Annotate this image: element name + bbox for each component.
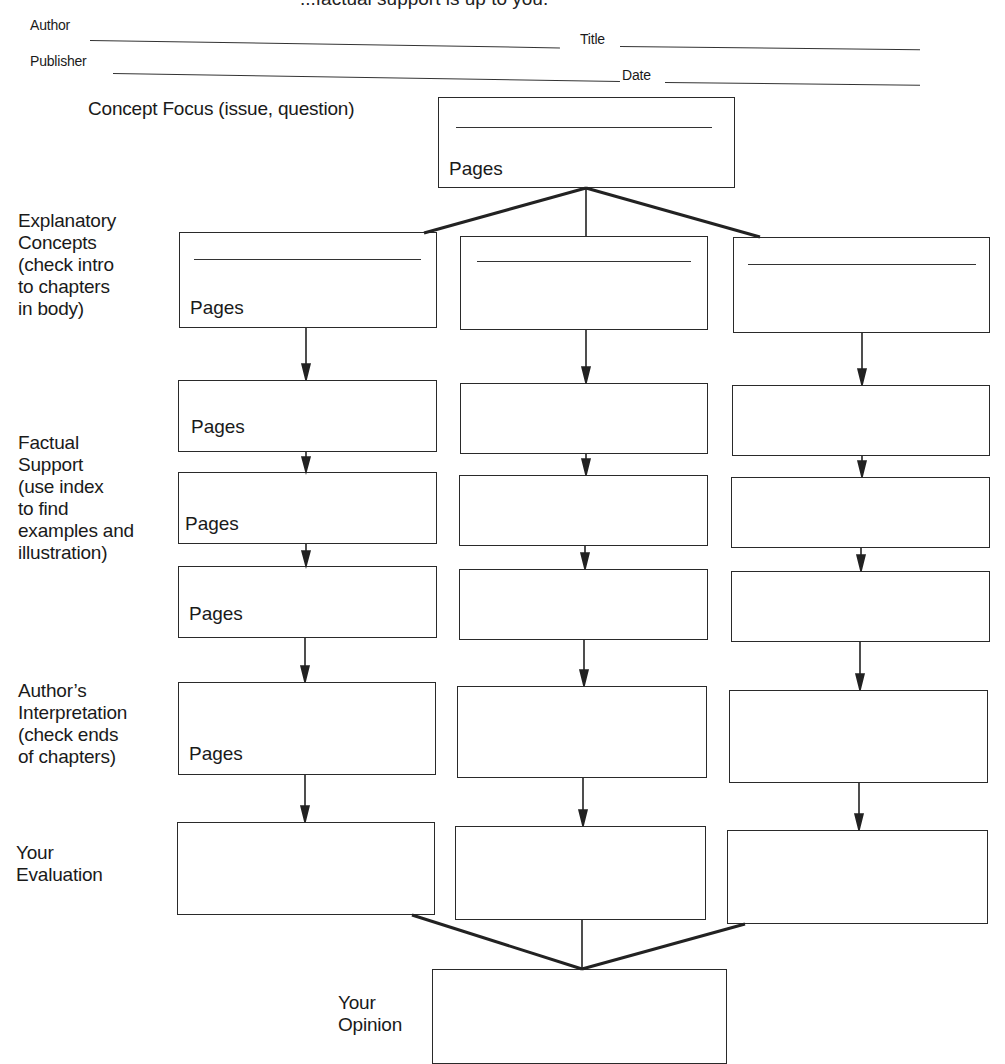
flow-connectors	[0, 0, 1005, 1064]
